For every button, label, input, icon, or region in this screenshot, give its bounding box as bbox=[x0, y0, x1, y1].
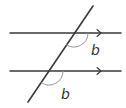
lower-angle-label: b bbox=[61, 86, 70, 102]
upper-angle-label: b bbox=[91, 42, 100, 58]
parallel-lines-diagram: b b bbox=[0, 0, 126, 108]
